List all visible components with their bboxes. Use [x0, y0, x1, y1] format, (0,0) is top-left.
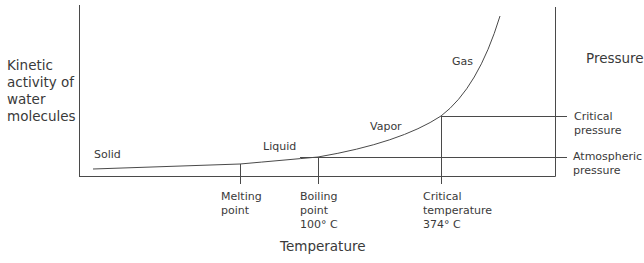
phase-label-gas: Gas: [452, 55, 473, 69]
phase-label-vapor: Vapor: [370, 120, 402, 134]
y-axis-label: Kinetic activity of water molecules: [7, 57, 76, 125]
melting-point-label: Melting point: [221, 190, 262, 218]
phase-label-liquid: Liquid: [263, 140, 296, 154]
atmospheric-pressure-label: Atmospheric pressure: [573, 150, 642, 178]
right-axis-label: Pressure: [586, 50, 644, 67]
critical-pressure-label: Critical pressure: [574, 110, 622, 138]
x-axis-label: Temperature: [280, 238, 366, 255]
critical-temperature-label: Critical temperature 374° C: [423, 190, 492, 232]
boiling-point-label: Boiling point 100° C: [300, 190, 338, 232]
kinetic-activity-curve: [93, 16, 500, 169]
phase-label-solid: Solid: [94, 148, 121, 162]
